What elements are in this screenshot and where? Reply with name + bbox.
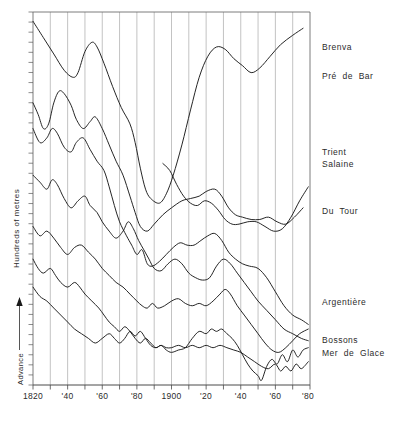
x-tick-label-1840: '40 bbox=[62, 391, 74, 401]
x-axis-tick-labels: 1820 '40 '60 '80 1900 '20 '40 '60 '80 bbox=[23, 391, 314, 401]
x-tick-label-1940: '40 bbox=[235, 391, 247, 401]
series-label-bossons: Bossons bbox=[322, 335, 358, 345]
x-tick-label-1820: 1820 bbox=[23, 391, 43, 401]
series-label-du-tour: Du Tour bbox=[322, 206, 358, 216]
series-label-brenva: Brenva bbox=[322, 42, 352, 52]
series-label-salaine: Salaine bbox=[322, 159, 354, 169]
series-label-argentiere: Argentière bbox=[322, 297, 366, 307]
x-tick-label-1980: '80 bbox=[302, 391, 314, 401]
x-tick-label-1960: '60 bbox=[269, 391, 281, 401]
advance-label: Advance bbox=[16, 353, 25, 385]
glacier-snout-variation-chart: 1820 '40 '60 '80 1900 '20 '40 '60 '80 Hu… bbox=[0, 0, 397, 421]
x-tick-label-1880: '80 bbox=[131, 391, 143, 401]
chart-figure: 1820 '40 '60 '80 1900 '20 '40 '60 '80 Hu… bbox=[0, 0, 397, 421]
series-label-trient: Trient bbox=[322, 147, 347, 157]
series-label-pre-de-bar: Pré de Bar bbox=[322, 71, 373, 81]
series-label-mer-de-glace: Mer de Glace bbox=[322, 348, 385, 358]
y-axis-title: Hundreds of metres bbox=[12, 189, 21, 268]
x-tick-label-1920: '20 bbox=[200, 391, 212, 401]
x-tick-label-1900: 1900 bbox=[161, 391, 181, 401]
x-tick-label-1860: '60 bbox=[96, 391, 108, 401]
